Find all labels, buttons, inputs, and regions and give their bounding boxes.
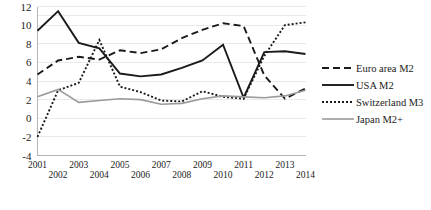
y-axis-tick-label: -2 — [22, 131, 31, 143]
y-axis-tick-label: 4 — [26, 75, 32, 87]
y-axis-tick-label: 12 — [21, 1, 32, 13]
y-axis-tick-labels: 121086420-2-4 — [21, 1, 33, 162]
x-axis-tick-label: 2001 — [28, 160, 47, 170]
x-axis-tick-label: 2007 — [152, 160, 171, 170]
chart-canvas: 121086420-2-4 20012002200320042005200620… — [0, 0, 431, 210]
x-axis-tick-labels: 2001200220032004200520062007200820092010… — [28, 160, 315, 180]
series-line-euro-area-m2 — [38, 23, 306, 98]
legend-label: Euro area M2 — [356, 63, 414, 74]
x-axis-tick-label: 2014 — [296, 170, 315, 180]
x-axis-tick-label: 2011 — [234, 160, 253, 170]
x-axis-tick-label: 2009 — [193, 160, 212, 170]
y-axis-tick-label: 6 — [26, 56, 32, 68]
x-axis-tick-label: 2006 — [131, 170, 150, 180]
line-chart: 121086420-2-4 20012002200320042005200620… — [0, 0, 431, 210]
legend-label: Japan M2+ — [356, 114, 403, 125]
y-axis-tick-label: 0 — [26, 112, 32, 124]
y-axis-tick-label: 10 — [21, 19, 33, 31]
x-axis-tick-label: 2008 — [172, 170, 191, 180]
legend-label: Switzerland M3 — [356, 97, 423, 108]
x-axis-tick-label: 2003 — [69, 160, 88, 170]
gridlines — [38, 7, 306, 156]
x-axis-tick-label: 2004 — [90, 170, 109, 180]
x-axis-tick-label: 2013 — [275, 160, 294, 170]
y-axis-tick-label: 2 — [26, 94, 32, 106]
chart-legend: Euro area M2USA M2Switzerland M3Japan M2… — [322, 63, 423, 125]
x-axis-tick-label: 2002 — [49, 170, 68, 180]
legend-label: USA M2 — [356, 80, 394, 91]
series-line-japan-m2 — [38, 89, 306, 104]
x-axis-tick-label: 2012 — [255, 170, 274, 180]
x-axis-tick-label: 2010 — [214, 170, 233, 180]
y-axis-tick-label: 8 — [26, 38, 32, 50]
x-axis-tick-label: 2005 — [110, 160, 129, 170]
